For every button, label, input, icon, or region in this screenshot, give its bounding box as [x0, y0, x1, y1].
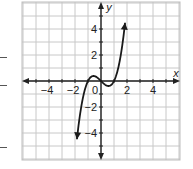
svg-text:0: 0: [92, 84, 98, 96]
svg-text:x: x: [172, 67, 179, 79]
cubic-function-graph: −4−224−4−2240xy: [0, 0, 193, 169]
svg-text:4: 4: [150, 84, 156, 96]
svg-text:−2: −2: [84, 101, 97, 113]
svg-text:−2: −2: [67, 84, 80, 96]
svg-text:−4: −4: [41, 84, 54, 96]
svg-text:−4: −4: [84, 127, 97, 139]
svg-text:4: 4: [91, 23, 97, 35]
svg-text:2: 2: [91, 49, 97, 61]
svg-text:2: 2: [124, 84, 130, 96]
